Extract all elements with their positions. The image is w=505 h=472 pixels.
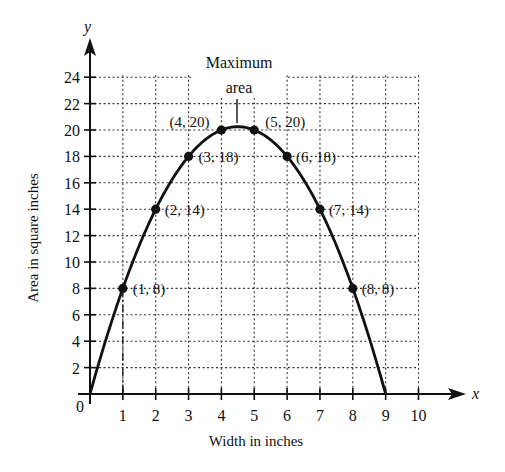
- x-tick-label: 5: [250, 407, 258, 424]
- annotation-line2: area: [226, 79, 253, 96]
- parabola-chart: x y 0 2468101214161820222412345678910 (1…: [0, 0, 505, 472]
- data-point-marker: [315, 205, 324, 214]
- data-point-marker: [217, 125, 226, 134]
- point-label: (8, 8): [362, 281, 395, 298]
- annotation-line1: Maximum: [206, 54, 273, 71]
- parabola-path: [90, 127, 386, 394]
- x-tick-label: 4: [217, 407, 225, 424]
- data-point-marker: [118, 284, 127, 293]
- y-tick-label: 20: [64, 122, 80, 139]
- x-tick-label: 2: [152, 407, 160, 424]
- chart-figure: x y 0 2468101214161820222412345678910 (1…: [0, 0, 505, 472]
- parabola-curve: [90, 127, 386, 394]
- x-tick-label: 8: [349, 407, 357, 424]
- point-label: (6, 18): [296, 149, 336, 166]
- y-tick-label: 12: [64, 228, 80, 245]
- data-point-marker: [151, 205, 160, 214]
- axis-ticks: 2468101214161820222412345678910: [64, 69, 427, 424]
- y-tick-label: 14: [64, 201, 80, 218]
- y-tick-label: 10: [64, 254, 80, 271]
- x-axis-variable: x: [471, 385, 479, 402]
- point-label: (2, 14): [165, 202, 205, 219]
- y-tick-label: 18: [64, 148, 80, 165]
- x-tick-label: 7: [316, 407, 324, 424]
- point-label: (7, 14): [329, 202, 369, 219]
- origin-label: 0: [76, 398, 84, 415]
- y-tick-label: 4: [72, 333, 80, 350]
- y-tick-label: 16: [64, 175, 80, 192]
- data-points: (1, 8)(2, 14)(3, 18)(4, 20)(5, 20)(6, 18…: [118, 114, 394, 298]
- point-label: (4, 20): [169, 114, 209, 131]
- point-label: (1, 8): [133, 281, 166, 298]
- data-point-marker: [184, 152, 193, 161]
- x-tick-label: 6: [283, 407, 291, 424]
- y-tick-label: 24: [64, 69, 80, 86]
- y-axis-title: Area in square inches: [25, 173, 41, 303]
- data-point-marker: [250, 125, 259, 134]
- y-axis-variable: y: [82, 18, 92, 36]
- x-axis-title: Width in inches: [209, 433, 304, 449]
- y-tick-label: 22: [64, 96, 80, 113]
- point-label: (5, 20): [265, 114, 305, 131]
- x-tick-label: 10: [411, 407, 427, 424]
- data-point-marker: [283, 152, 292, 161]
- x-tick-label: 1: [119, 407, 127, 424]
- x-tick-label: 3: [185, 407, 193, 424]
- data-point-marker: [348, 284, 357, 293]
- y-tick-label: 8: [72, 280, 80, 297]
- x-tick-label: 9: [382, 407, 390, 424]
- point-label: (3, 18): [199, 149, 239, 166]
- y-tick-label: 2: [72, 360, 80, 377]
- y-tick-label: 6: [72, 307, 80, 324]
